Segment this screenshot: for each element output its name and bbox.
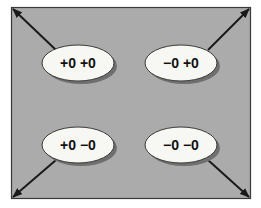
node-label: −0 −0 [163, 137, 199, 153]
node-label: −0 +0 [163, 55, 199, 71]
signed-zero-quadrant-diagram: +0 +0 −0 +0 +0 −0 −0 −0 [0, 0, 261, 208]
gray-panel [12, 8, 251, 199]
node-label: +0 +0 [60, 55, 96, 71]
node-label: +0 −0 [60, 137, 96, 153]
